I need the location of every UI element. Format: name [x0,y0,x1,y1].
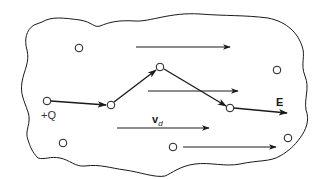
charge-label: +Q [41,110,56,121]
field-arrows [117,47,276,147]
path-segment-3 [164,69,226,106]
field-label: E [276,97,283,108]
lattice-point [75,44,83,52]
lattice-point [59,139,67,147]
path-segment-2 [114,70,156,102]
charge-label-text: +Q [41,109,56,121]
lattice-points [59,44,292,151]
drift-velocity-label: vd [152,114,163,128]
path-points [43,63,234,112]
lattice-point [273,66,281,74]
conductor-diagram [0,0,330,179]
collision-point [156,63,164,71]
field-label-text: E [276,96,283,108]
collision-point [226,104,234,112]
drift-velocity-subscript: d [158,119,162,128]
lattice-point [284,134,292,142]
collision-point [107,101,115,109]
conductor-boundary [21,14,307,177]
charge-start-point [43,97,51,105]
path-segment-4 [234,108,287,113]
path-segment-1 [51,101,106,105]
lattice-point [169,143,177,151]
